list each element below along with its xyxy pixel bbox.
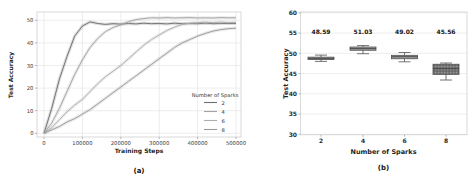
- box-chart-panel: 48.5951.0349.0245.56246830354045505560: [289, 9, 467, 144]
- x-tick-label: 4: [361, 137, 365, 144]
- line-chart-panel: 0100000200000300000400000500000010203040…: [27, 12, 247, 146]
- x-tick-label: 300000: [149, 140, 170, 146]
- y-tick-label: 60: [289, 9, 297, 16]
- legend: 2468: [204, 100, 226, 133]
- y-tick-label: 40: [27, 40, 34, 46]
- y-tick-label: 30: [289, 131, 297, 138]
- figure-canvas: 0100000200000300000400000500000010203040…: [0, 0, 473, 184]
- legend-item-label: 4: [222, 109, 226, 115]
- y-tick-label: 0: [30, 130, 34, 136]
- two-panel-figure: 0100000200000300000400000500000010203040…: [0, 0, 473, 184]
- legend-item-label: 6: [222, 118, 225, 124]
- y-tick-label: 10: [27, 108, 34, 114]
- legend-item-label: 8: [222, 127, 225, 133]
- x-tick-label: 100000: [72, 140, 93, 146]
- boxplot-box-8: [433, 64, 459, 74]
- y-axis-label-b: Test Accuracy: [282, 48, 290, 99]
- x-axis-label-b: Number of Sparks: [350, 148, 416, 156]
- series-band-4: [44, 18, 236, 134]
- x-tick-label: 2: [319, 137, 323, 144]
- x-tick-label: 6: [402, 137, 406, 144]
- mean-value-label: 45.56: [437, 28, 456, 35]
- legend-item-label: 2: [222, 100, 225, 106]
- y-tick-label: 55: [289, 29, 297, 36]
- x-tick-label: 500000: [226, 140, 247, 146]
- y-tick-label: 20: [27, 85, 34, 91]
- legend-title: Number of Sparks: [192, 92, 239, 99]
- caption-b: (b): [378, 164, 389, 172]
- mean-value-label: 51.03: [354, 28, 373, 35]
- x-axis-label-a: Training Steps: [115, 147, 164, 155]
- x-tick-label: 200000: [111, 140, 132, 146]
- y-tick-label: 35: [289, 110, 297, 117]
- mean-value-label: 49.02: [395, 28, 414, 35]
- y-tick-label: 30: [27, 63, 34, 69]
- x-tick-label: 0: [42, 140, 46, 146]
- mean-value-label: 48.59: [312, 28, 331, 35]
- y-axis-label-a: Test Accuracy: [7, 52, 15, 98]
- x-tick-label: 8: [444, 137, 448, 144]
- caption-a: (a): [133, 167, 144, 175]
- x-tick-label: 400000: [187, 140, 208, 146]
- y-tick-label: 50: [27, 17, 34, 23]
